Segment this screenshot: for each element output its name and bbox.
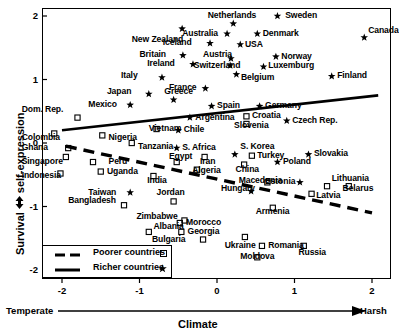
- climate-axis-arrow: [0, 0, 398, 331]
- chart-root: Survivalself-expression Poorer countries…: [0, 0, 398, 331]
